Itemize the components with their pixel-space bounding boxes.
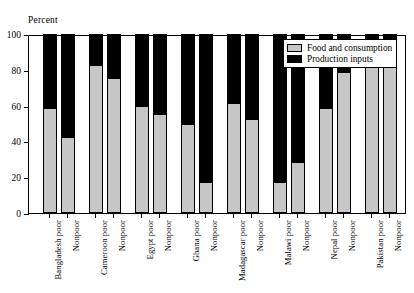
x-tick-label: Nonpoor [117, 220, 127, 251]
x-tick-mark [49, 214, 50, 218]
stacked-bar [245, 34, 259, 213]
x-tick-label: Nonpoor [301, 220, 311, 251]
legend-item: Food and consumption [287, 42, 392, 53]
y-tick-mark [24, 107, 29, 108]
x-tick-label: Nonpoor [209, 220, 219, 251]
x-tick-mark [187, 214, 188, 218]
chart-legend: Food and consumptionProduction inputs [283, 39, 397, 68]
y-tick-label: 60 [0, 102, 21, 112]
bar-segment-food [182, 124, 194, 212]
stacked-bar [153, 34, 167, 213]
stacked-bar [61, 34, 75, 213]
x-tick-mark [297, 214, 298, 218]
x-tick-label: Malawi poor [283, 220, 293, 265]
bar-segment-food [44, 108, 56, 212]
x-tick-mark [113, 214, 114, 218]
bar-segment-food [274, 182, 286, 212]
x-tick-mark [67, 214, 68, 218]
stacked-bar [181, 34, 195, 213]
stacked-bar [107, 34, 121, 213]
x-tick-label: Madagascar poor [237, 220, 247, 281]
x-tick-mark [343, 214, 344, 218]
x-tick-mark [233, 214, 234, 218]
chart-figure: Percent 020406080100 Bangladesh poorNonp… [0, 0, 414, 293]
stacked-bar [43, 34, 57, 213]
y-tick-label: 40 [0, 137, 21, 147]
legend-label: Food and consumption [307, 43, 392, 53]
legend-item: Production inputs [287, 53, 392, 64]
legend-label: Production inputs [307, 54, 373, 64]
stacked-bar [199, 34, 213, 213]
bar-segment-food [228, 103, 240, 212]
x-tick-mark [205, 214, 206, 218]
bar-segment-food [366, 62, 378, 212]
stacked-bar [89, 34, 103, 213]
bar-segment-food [136, 106, 148, 212]
x-tick-mark [325, 214, 326, 218]
bar-segment-food [200, 182, 212, 212]
y-tick-mark [24, 35, 29, 36]
x-tick-label: Nonpoor [393, 220, 403, 251]
legend-swatch-food [287, 44, 302, 52]
x-tick-label: Nonpoor [347, 220, 357, 251]
bar-segment-food [320, 108, 332, 212]
x-tick-label: Pakistan poor [375, 220, 385, 268]
x-tick-label: Nonpoor [255, 220, 265, 251]
x-tick-mark [389, 214, 390, 218]
y-tick-mark [24, 178, 29, 179]
x-tick-label: Ghana poor [191, 220, 201, 261]
x-tick-label: Bangladesh poor [53, 220, 63, 280]
x-tick-label: Nonpoor [163, 220, 173, 251]
y-tick-mark [24, 71, 29, 72]
x-tick-mark [159, 214, 160, 218]
y-tick-mark [24, 142, 29, 143]
y-tick-label: 20 [0, 173, 21, 183]
x-tick-mark [371, 214, 372, 218]
bar-segment-food [384, 67, 396, 212]
stacked-bar [227, 34, 241, 213]
y-tick-label: 100 [0, 30, 21, 40]
x-tick-label: Egypt poor [145, 220, 155, 259]
x-tick-mark [95, 214, 96, 218]
bar-segment-food [338, 72, 350, 212]
x-tick-mark [279, 214, 280, 218]
y-tick-label: 80 [0, 66, 21, 76]
y-tick-mark [24, 214, 29, 215]
bar-segment-food [108, 78, 120, 212]
bar-segment-food [246, 119, 258, 212]
x-tick-label: Nonpoor [71, 220, 81, 251]
x-tick-label: Nepal poor [329, 220, 339, 259]
bar-segment-food [292, 162, 304, 212]
x-tick-label: Cameroon poor [99, 220, 109, 275]
bar-segment-food [154, 114, 166, 212]
x-tick-mark [251, 214, 252, 218]
x-tick-mark [141, 214, 142, 218]
bar-segment-food [90, 65, 102, 212]
stacked-bar [135, 34, 149, 213]
bar-segment-food [62, 137, 74, 212]
legend-swatch-prod [287, 55, 302, 63]
y-tick-label: 0 [0, 209, 21, 219]
y-axis-title: Percent [28, 15, 58, 25]
